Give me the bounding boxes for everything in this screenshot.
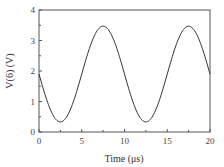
x-tick-label: 0 — [37, 136, 42, 146]
x-tick-label: 20 — [206, 136, 216, 146]
y-tick-label: 4 — [31, 5, 36, 15]
y-tick-label: 3 — [31, 36, 36, 46]
x-axis-label: Time (μs) — [104, 153, 143, 165]
y-tick-label: 0 — [31, 127, 36, 137]
x-tick-label: 15 — [163, 136, 173, 146]
x-tick-label: 10 — [120, 136, 130, 146]
line-chart: 01234 05101520 Time (μs) V(6) (V) — [0, 0, 224, 167]
x-tick-label: 5 — [80, 136, 85, 146]
y-tick-label: 1 — [31, 97, 36, 107]
series-line-v6 — [39, 26, 210, 122]
y-axis-label: V(6) (V) — [4, 53, 16, 88]
y-axis-ticks: 01234 — [31, 5, 43, 137]
y-tick-label: 2 — [31, 66, 36, 76]
